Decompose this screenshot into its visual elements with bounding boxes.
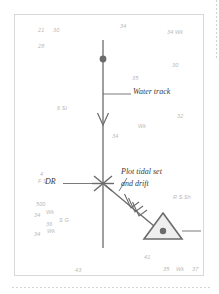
- ep-center-dot-icon: [160, 228, 166, 234]
- dr-label: DR: [45, 177, 56, 187]
- feathered-arrowheads-icon: [125, 194, 148, 216]
- dotted-guide-right: [216, 0, 217, 60]
- water-track-label: Water track: [133, 87, 170, 97]
- tidal-note-line-1: Plot tidal set: [121, 167, 162, 177]
- tidal-note-line-2: and drift: [121, 179, 149, 189]
- chart-page: 21303434 Wk2830356 St32Wk344F SR S Sh500…: [0, 0, 219, 294]
- dotted-guide-bottom: [12, 287, 212, 288]
- chart-card: 21303434 Wk2830356 St32Wk344F SR S Sh500…: [14, 14, 204, 276]
- tidal-vector-line: [105, 185, 160, 231]
- ep-label: EP: [203, 225, 204, 235]
- ep-triangle-icon: [144, 213, 182, 239]
- top-cut-text: [10, 0, 210, 6]
- fix-dot-icon: [100, 56, 107, 63]
- plot-vectors: [15, 15, 204, 276]
